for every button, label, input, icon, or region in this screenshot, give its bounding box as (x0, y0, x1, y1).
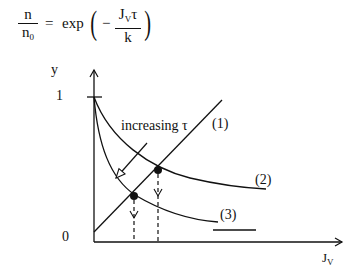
origin-label: 0 (62, 229, 69, 245)
increasing-tau-label: increasing τ (121, 118, 188, 134)
x-axis-label-sub: V (327, 257, 334, 267)
diagram-canvas (0, 0, 357, 271)
y-tick-one-label: 1 (56, 88, 63, 104)
intersection-point-3 (130, 192, 138, 200)
curve-label-1: (1) (212, 116, 228, 132)
intersection-point-2 (154, 166, 162, 174)
curve-label-2: (2) (255, 172, 271, 188)
curve-label-3: (3) (220, 207, 236, 223)
y-axis-label: y (51, 62, 58, 78)
x-axis-label: JV (322, 250, 334, 267)
curve-3 (94, 97, 218, 222)
